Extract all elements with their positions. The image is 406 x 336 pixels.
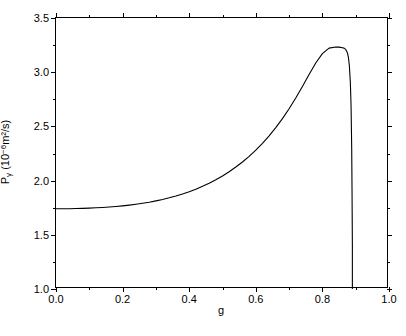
y-axis-symbol: P (0, 177, 11, 184)
x-tick-major-top (123, 13, 124, 18)
x-tick-major-top (56, 13, 57, 18)
y-tick-major (51, 126, 56, 127)
x-tick-major (56, 287, 57, 292)
y-axis-units-head: (10 (0, 154, 11, 173)
plot-svg (56, 18, 389, 289)
x-tick-major-top (389, 13, 390, 18)
y-tick-major-right (387, 126, 392, 127)
x-tick-minor (89, 287, 90, 290)
x-tick-label: 0.6 (248, 294, 263, 305)
y-tick-minor (53, 154, 56, 155)
x-tick-label: 1.0 (381, 294, 396, 305)
x-tick-major (322, 287, 323, 292)
y-tick-label: 1.0 (34, 284, 49, 295)
y-axis-exponent: −6 (0, 145, 8, 154)
x-axis-title: g (218, 305, 224, 316)
y-tick-major (51, 18, 56, 19)
x-tick-minor-top (89, 15, 90, 18)
x-tick-label: 0.4 (182, 294, 197, 305)
x-tick-minor-top (289, 15, 290, 18)
data-series-line (56, 47, 352, 289)
plot-area: 1.01.52.02.53.03.50.00.20.40.60.81.0 (55, 17, 388, 288)
x-tick-minor-top (356, 15, 357, 18)
y-tick-minor-right (387, 262, 390, 263)
y-tick-minor-right (387, 45, 390, 46)
y-tick-minor-right (387, 154, 390, 155)
y-tick-major-right (387, 72, 392, 73)
y-tick-label: 3.0 (34, 67, 49, 78)
y-tick-label: 2.5 (34, 121, 49, 132)
figure: 1.01.52.02.53.03.50.00.20.40.60.81.0 Pγ … (0, 0, 406, 336)
y-tick-major-right (387, 181, 392, 182)
x-tick-major (256, 287, 257, 292)
y-tick-label: 1.5 (34, 229, 49, 240)
y-axis-title: Pγ (10−6m²/s) (0, 120, 13, 184)
y-tick-minor-right (387, 99, 390, 100)
y-tick-minor (53, 99, 56, 100)
x-tick-major-top (322, 13, 323, 18)
x-tick-minor-top (156, 15, 157, 18)
x-tick-major (389, 287, 390, 292)
y-tick-major-right (387, 18, 392, 19)
y-tick-minor (53, 45, 56, 46)
x-tick-label: 0.2 (115, 294, 130, 305)
y-tick-major (51, 181, 56, 182)
y-tick-minor-right (387, 208, 390, 209)
x-tick-minor (356, 287, 357, 290)
y-tick-major (51, 235, 56, 236)
y-tick-major (51, 72, 56, 73)
x-tick-major (123, 287, 124, 292)
y-tick-minor (53, 262, 56, 263)
x-tick-minor (156, 287, 157, 290)
y-axis-subscript: γ (4, 173, 13, 177)
caption-fragment (0, 328, 406, 336)
y-tick-major-right (387, 235, 392, 236)
x-tick-label: 0.8 (315, 294, 330, 305)
x-tick-minor (289, 287, 290, 290)
x-tick-major-top (189, 13, 190, 18)
x-tick-major (189, 287, 190, 292)
y-axis-units-tail: m²/s) (0, 120, 11, 145)
x-tick-label: 0.0 (48, 294, 63, 305)
y-tick-label: 2.0 (34, 175, 49, 186)
x-tick-minor (223, 287, 224, 290)
x-tick-major-top (256, 13, 257, 18)
y-tick-label: 3.5 (34, 13, 49, 24)
y-tick-minor (53, 208, 56, 209)
x-tick-minor-top (223, 15, 224, 18)
